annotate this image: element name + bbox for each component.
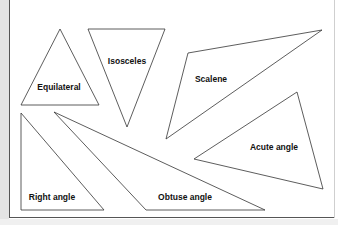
equilateral-shape	[21, 29, 99, 105]
scalene-label: Scalene	[195, 74, 227, 84]
isosceles-label: Isosceles	[108, 56, 147, 66]
triangle-types-diagram: Equilateral Isosceles Scalene Acute angl…	[0, 0, 338, 225]
acute-angle-label: Acute angle	[250, 142, 298, 152]
equilateral-label: Equilateral	[37, 82, 80, 92]
triangle-isosceles: Isosceles	[88, 29, 165, 127]
scalene-shape	[166, 30, 322, 139]
triangle-right-angle: Right angle	[21, 113, 104, 210]
acute-angle-shape	[194, 92, 323, 189]
isosceles-shape	[88, 29, 165, 127]
triangle-scalene: Scalene	[166, 30, 322, 139]
obtuse-angle-label: Obtuse angle	[158, 192, 212, 202]
triangle-equilateral: Equilateral	[21, 29, 99, 105]
triangle-acute-angle: Acute angle	[194, 92, 323, 189]
triangle-obtuse-angle: Obtuse angle	[54, 112, 265, 210]
right-angle-label: Right angle	[29, 192, 76, 202]
